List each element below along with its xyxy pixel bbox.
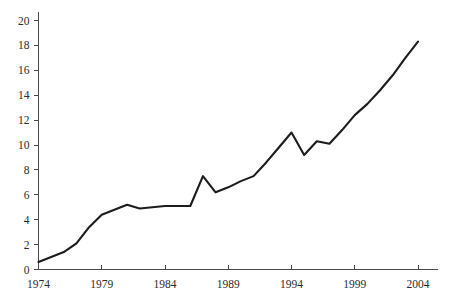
x-axis-ticks: 1974197919841989199419992004 xyxy=(27,265,430,290)
y-tick-label: 12 xyxy=(18,114,30,126)
y-tick-label: 18 xyxy=(18,39,30,51)
chart-canvas: 02468101214161820 1974197919841989199419… xyxy=(0,0,450,306)
x-tick-label: 2004 xyxy=(407,278,430,290)
y-tick-label: 20 xyxy=(18,15,30,27)
line-chart: 02468101214161820 1974197919841989199419… xyxy=(0,0,450,306)
data-series-line xyxy=(39,42,419,262)
y-tick-label: 4 xyxy=(24,214,30,226)
x-tick-label: 1979 xyxy=(90,278,113,290)
x-tick-label: 1974 xyxy=(27,278,50,290)
y-tick-label: 2 xyxy=(24,239,30,251)
y-tick-label: 0 xyxy=(24,264,30,276)
x-tick-label: 1999 xyxy=(343,278,366,290)
y-tick-label: 14 xyxy=(18,89,30,101)
y-axis: 02468101214161820 xyxy=(18,12,39,276)
x-tick-label: 1989 xyxy=(217,278,240,290)
y-tick-label: 8 xyxy=(24,164,30,176)
y-axis-ticks: 02468101214161820 xyxy=(18,15,39,276)
y-tick-label: 16 xyxy=(18,64,30,76)
y-tick-label: 10 xyxy=(18,139,30,151)
x-axis: 1974197919841989199419992004 xyxy=(27,265,438,290)
x-tick-label: 1994 xyxy=(280,278,303,290)
y-tick-label: 6 xyxy=(24,189,30,201)
x-tick-label: 1984 xyxy=(154,278,177,290)
